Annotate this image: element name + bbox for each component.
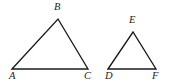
geometry-figure: A B C D E F <box>0 0 171 84</box>
vertex-label-c: C <box>84 70 91 81</box>
vertex-label-e: E <box>129 14 135 25</box>
vertex-label-a: A <box>9 70 15 81</box>
vertex-label-b: B <box>54 1 60 12</box>
vertex-label-f: F <box>152 70 158 81</box>
triangle-abc <box>12 19 88 69</box>
vertex-label-d: D <box>105 70 113 81</box>
triangle-def <box>108 32 156 69</box>
